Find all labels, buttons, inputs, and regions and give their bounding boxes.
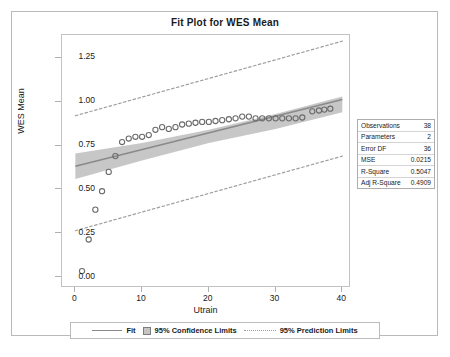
legend-label-confidence: 95% Confidence Limits (155, 326, 237, 336)
stats-key: R-Square (361, 168, 389, 175)
data-point-marker (220, 118, 225, 123)
stats-row: Parameters2 (358, 132, 434, 144)
y-tick-label: 0.25 (61, 227, 95, 237)
data-point-marker (173, 125, 178, 130)
x-tick-mark (141, 287, 142, 292)
y-tick-label: 0.50 (61, 183, 95, 193)
y-tick-label: 0.75 (61, 139, 95, 149)
y-tick-label: 1.00 (61, 95, 95, 105)
data-point-marker (133, 134, 138, 139)
data-point-marker (180, 122, 185, 127)
data-point-marker (166, 126, 171, 131)
x-tick-mark (208, 287, 209, 292)
stats-row: Adj R-Square0.4909 (358, 178, 434, 189)
x-tick-label: 30 (255, 293, 295, 303)
stats-key: Parameters (361, 133, 395, 140)
fit-line (75, 100, 342, 167)
prediction-limit-line (75, 41, 342, 116)
data-point-marker (126, 136, 131, 141)
data-point-marker (146, 132, 151, 137)
x-tick-label: 20 (188, 293, 228, 303)
data-point-marker (213, 118, 218, 123)
plot-area (61, 34, 350, 287)
stats-key: Error DF (361, 145, 386, 152)
plot-canvas (62, 35, 349, 286)
data-point-marker (206, 119, 211, 124)
x-tick-mark (341, 287, 342, 292)
prediction-limits-swatch-icon (244, 330, 276, 331)
data-point-marker (186, 121, 191, 126)
stats-key: MSE (361, 156, 375, 163)
legend-item-fit: Fit (92, 326, 135, 336)
x-tick-label: 0 (54, 293, 94, 303)
stats-value: 0.0215 (411, 156, 431, 163)
legend-label-prediction: 95% Prediction Limits (280, 326, 358, 336)
data-point-marker (139, 134, 144, 139)
data-point-marker (160, 125, 165, 130)
fit-line-swatch-icon (92, 330, 122, 331)
legend-label-fit: Fit (126, 326, 135, 336)
data-point-marker (240, 114, 245, 119)
data-point-marker (106, 169, 111, 174)
stats-value: 2 (427, 133, 431, 140)
y-tick-label: 0.00 (61, 271, 95, 281)
y-tick-mark (55, 276, 61, 277)
fit-plot-figure: Fit Plot for WES Mean WES Mean Utrain 0.… (0, 0, 450, 357)
legend-item-prediction: 95% Prediction Limits (244, 326, 358, 336)
data-point-marker (86, 237, 91, 242)
data-point-marker (200, 119, 205, 124)
data-point-marker (246, 114, 251, 119)
data-point-marker (119, 139, 124, 144)
stats-value: 0.4909 (411, 179, 431, 186)
data-point-marker (99, 189, 104, 194)
confidence-band-swatch-icon (143, 327, 151, 335)
data-point-marker (193, 120, 198, 125)
stats-value: 0.5047 (411, 168, 431, 175)
stats-row: R-Square0.5047 (358, 166, 434, 178)
y-tick-mark (55, 232, 61, 233)
y-tick-mark (55, 145, 61, 146)
y-tick-mark (55, 57, 61, 58)
fit-statistics-box: Observations38Parameters2Error DF36MSE0.… (357, 119, 435, 189)
x-axis-title: Utrain (61, 305, 350, 315)
x-tick-mark (275, 287, 276, 292)
stats-row: Observations38 (358, 120, 434, 132)
stats-key: Adj R-Square (361, 179, 401, 186)
y-tick-label: 1.25 (61, 51, 95, 61)
stats-row: Error DF36 (358, 143, 434, 155)
stats-value: 36 (424, 145, 431, 152)
x-tick-mark (74, 287, 75, 292)
data-point-marker (233, 116, 238, 121)
stats-key: Observations (361, 122, 400, 129)
stats-value: 38 (424, 122, 431, 129)
y-tick-mark (55, 188, 61, 189)
y-tick-mark (55, 101, 61, 102)
chart-legend: Fit 95% Confidence Limits 95% Prediction… (70, 322, 380, 339)
chart-title: Fit Plot for WES Mean (0, 17, 450, 28)
data-point-marker (93, 207, 98, 212)
x-tick-label: 40 (321, 293, 361, 303)
data-point-marker (226, 117, 231, 122)
x-tick-label: 10 (121, 293, 161, 303)
legend-item-confidence: 95% Confidence Limits (143, 326, 237, 336)
stats-row: MSE0.0215 (358, 155, 434, 167)
y-axis-title: WES Mean (16, 56, 26, 166)
data-point-marker (153, 127, 158, 132)
